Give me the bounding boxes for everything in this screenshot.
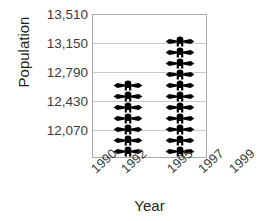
person-icon	[165, 58, 195, 69]
person-icon	[113, 91, 143, 102]
y-tick-label: 12,430	[32, 95, 88, 109]
y-tick-label: 12,790	[32, 66, 88, 80]
y-tick-label: 12,070	[32, 124, 88, 138]
pictograph-column-1992	[113, 80, 143, 157]
person-icon	[165, 69, 195, 80]
pictograph-chart: Population 13,510 13,150 12,790 12,430 1…	[0, 0, 261, 221]
pictograph-column-1995	[165, 36, 195, 157]
person-icon	[165, 135, 195, 146]
person-icon	[113, 146, 143, 157]
person-icon	[165, 91, 195, 102]
person-icon	[113, 113, 143, 124]
person-icon	[165, 102, 195, 113]
person-icon	[165, 47, 195, 58]
person-icon	[113, 135, 143, 146]
person-icon	[165, 146, 195, 157]
y-tick-label: 13,150	[32, 37, 88, 51]
person-icon	[165, 36, 195, 47]
person-icon	[113, 102, 143, 113]
x-axis-title: Year	[92, 197, 207, 214]
person-icon	[113, 80, 143, 91]
person-icon	[165, 80, 195, 91]
person-icon	[113, 124, 143, 135]
person-icon	[165, 113, 195, 124]
plot-area	[92, 14, 207, 158]
y-axis-tick-labels: 13,510 13,150 12,790 12,430 12,070	[32, 0, 88, 221]
y-tick-label: 13,510	[32, 8, 88, 22]
x-tick-label: 1999	[226, 146, 258, 176]
person-icon	[165, 124, 195, 135]
